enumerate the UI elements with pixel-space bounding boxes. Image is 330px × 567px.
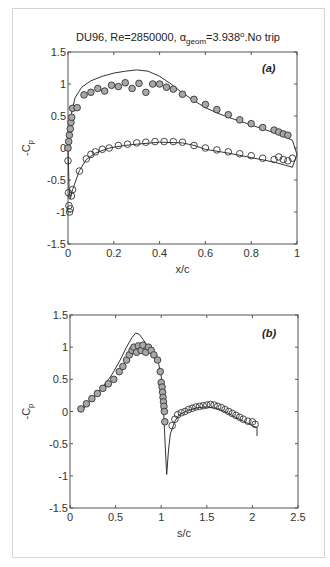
pressure-marker: [152, 138, 159, 145]
y-tick-label: -0.5: [49, 438, 68, 450]
suction-marker: [149, 81, 156, 88]
suction-marker: [129, 85, 136, 92]
suction-marker: [225, 111, 232, 118]
suction-marker: [78, 406, 85, 413]
pressure-marker: [214, 147, 221, 154]
suction-marker: [202, 101, 209, 108]
y-tick-label: -1.5: [49, 502, 68, 514]
y-tick-label: -1: [58, 470, 68, 482]
pressure-marker: [161, 138, 168, 145]
y-tick-label: 1.5: [51, 46, 66, 58]
x-tick-label: 2.5: [290, 511, 305, 523]
suction-marker: [122, 79, 129, 86]
suction-marker: [89, 395, 96, 402]
suction-marker: [143, 89, 150, 96]
y-tick-label: 0: [62, 406, 68, 418]
suction-marker: [88, 89, 95, 96]
suction-marker: [65, 145, 72, 152]
x-tick-label: 1: [158, 511, 164, 523]
suction-marker: [105, 381, 112, 388]
suction-marker: [157, 368, 164, 375]
computed-line: [68, 142, 297, 199]
y-tick-label: -0.5: [47, 174, 66, 186]
suction-marker: [154, 357, 161, 364]
suction-marker: [214, 106, 221, 113]
plot-area: [68, 52, 297, 244]
suction-marker: [74, 104, 81, 111]
y-axis-label: -Cp: [20, 139, 35, 156]
suction-marker: [162, 418, 169, 425]
suction-marker: [236, 117, 243, 124]
suction-marker: [179, 91, 186, 98]
x-axis-label: s/c: [177, 527, 192, 539]
suction-marker: [136, 80, 143, 87]
suction-marker: [110, 376, 117, 383]
suction-marker: [68, 114, 75, 121]
x-tick-label: 0.6: [198, 247, 213, 259]
suction-marker: [156, 81, 163, 88]
x-tick-label: 0.2: [106, 247, 121, 259]
panel-label: (b): [262, 327, 276, 339]
chart-a: 00.20.40.60.811.510.50-0.5-1-1.5x/c-Cp(a…: [20, 46, 300, 275]
y-tick-label: -1.5: [47, 238, 66, 250]
computed-line: [68, 70, 297, 154]
suction-marker: [94, 85, 101, 92]
pressure-marker: [259, 155, 266, 162]
y-tick-label: 1: [62, 341, 68, 353]
suction-marker: [285, 132, 292, 139]
panel-label: (a): [262, 62, 276, 74]
pressure-marker: [236, 150, 243, 157]
pressure-marker: [124, 141, 131, 148]
suction-marker: [248, 120, 255, 127]
pressure-marker: [179, 139, 186, 146]
suction-marker: [100, 385, 107, 392]
suction-marker: [170, 86, 177, 93]
x-tick-label: 2: [249, 511, 255, 523]
pressure-marker: [133, 140, 140, 147]
x-tick-label: 1.5: [199, 511, 214, 523]
suction-marker: [108, 82, 115, 89]
x-tick-label: 0.4: [152, 247, 167, 259]
pressure-marker: [225, 149, 232, 156]
suction-marker: [65, 138, 72, 145]
suction-marker: [163, 84, 170, 91]
x-axis-label: x/c: [175, 263, 190, 275]
y-tick-label: 1.5: [53, 309, 68, 321]
y-tick-label: 0.5: [51, 110, 66, 122]
pressure-marker: [143, 139, 150, 146]
y-tick-label: -1: [56, 206, 66, 218]
x-tick-label: 0.8: [244, 247, 259, 259]
x-tick-label: 1: [294, 247, 300, 259]
figure: DU96, Re=2850000, αgeom=3.938o.No trip 0…: [0, 0, 330, 567]
suction-marker: [120, 363, 127, 370]
suction-marker: [161, 408, 168, 415]
chart-b: 00.511.522.51.510.50-0.5-1-1.5s/c-Cp(b): [20, 309, 306, 539]
pressure-marker: [115, 142, 122, 149]
suction-marker: [83, 400, 90, 407]
computed-line: [81, 333, 257, 475]
suction-marker: [67, 126, 74, 133]
suction-marker: [101, 88, 108, 95]
suction-marker: [66, 132, 73, 139]
y-tick-label: 0.5: [53, 373, 68, 385]
figure-title: DU96, Re=2850000, αgeom=3.938o.No trip: [76, 30, 280, 46]
pressure-marker: [170, 138, 177, 145]
suction-marker: [94, 390, 101, 397]
suction-marker: [191, 96, 198, 103]
suction-marker: [115, 83, 122, 90]
suction-marker: [259, 124, 266, 131]
x-tick-label: 0.5: [108, 511, 123, 523]
pressure-marker: [249, 418, 256, 425]
y-tick-label: 1: [60, 78, 66, 90]
y-axis-label: -Cp: [20, 403, 35, 420]
suction-marker: [81, 92, 88, 99]
